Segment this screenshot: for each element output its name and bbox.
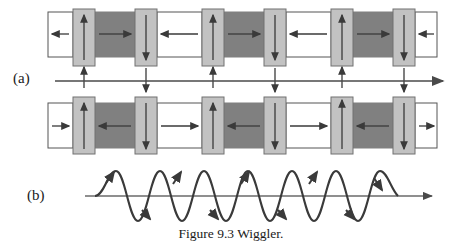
trajectory-arrow-down bbox=[374, 178, 382, 190]
panel-label-a: (a) bbox=[13, 70, 30, 87]
wiggler-figure bbox=[0, 0, 462, 248]
trajectory-arrow-down bbox=[210, 210, 218, 219]
panel-a bbox=[48, 9, 443, 154]
panel-b bbox=[85, 171, 432, 221]
trajectory-arrow-up bbox=[106, 172, 114, 183]
figure-caption: Figure 9.3 Wiggler. bbox=[0, 226, 462, 242]
magnet-row-top bbox=[48, 9, 437, 66]
trajectory-arrow-up bbox=[309, 172, 317, 184]
magnet-row-bottom bbox=[48, 97, 437, 154]
trajectory-arrow-up bbox=[173, 172, 181, 184]
panel-label-b: (b) bbox=[27, 187, 45, 204]
beam-axis-a-group bbox=[55, 67, 443, 92]
trajectory-arrow-down bbox=[278, 210, 286, 219]
